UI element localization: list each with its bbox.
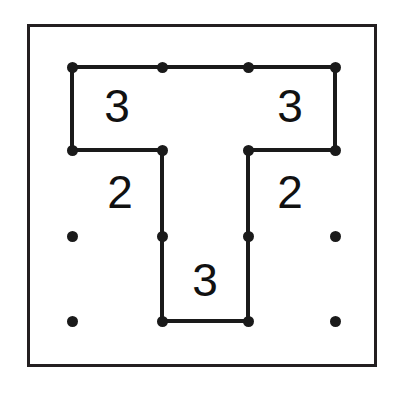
grid-dot[interactable]: [243, 145, 254, 156]
puzzle-edge-horizontal[interactable]: [162, 65, 248, 69]
grid-dot[interactable]: [330, 62, 341, 73]
grid-dot[interactable]: [330, 316, 341, 327]
grid-dot[interactable]: [67, 145, 78, 156]
grid-dot[interactable]: [157, 231, 168, 242]
cell-clue-number: 3: [104, 83, 130, 129]
grid-dot[interactable]: [157, 145, 168, 156]
puzzle-edge-vertical[interactable]: [160, 236, 164, 321]
slitherlink-puzzle: 33223: [0, 0, 394, 393]
puzzle-edge-horizontal[interactable]: [72, 148, 162, 152]
cell-clue-number: 3: [277, 83, 303, 129]
puzzle-edge-horizontal[interactable]: [162, 319, 248, 323]
grid-dot[interactable]: [330, 145, 341, 156]
puzzle-edge-vertical[interactable]: [333, 67, 337, 150]
grid-dot[interactable]: [67, 316, 78, 327]
puzzle-edge-horizontal[interactable]: [248, 65, 335, 69]
cell-clue-number: 2: [107, 169, 133, 215]
puzzle-edge-horizontal[interactable]: [72, 65, 162, 69]
puzzle-edge-horizontal[interactable]: [248, 148, 335, 152]
cell-clue-number: 3: [192, 257, 218, 303]
grid-dot[interactable]: [67, 231, 78, 242]
grid-dot[interactable]: [243, 316, 254, 327]
puzzle-edge-vertical[interactable]: [246, 150, 250, 236]
grid-dot[interactable]: [157, 316, 168, 327]
puzzle-edge-vertical[interactable]: [246, 236, 250, 321]
puzzle-edge-vertical[interactable]: [70, 67, 74, 150]
cell-clue-number: 2: [277, 169, 303, 215]
grid-dot[interactable]: [67, 62, 78, 73]
grid-dot[interactable]: [157, 62, 168, 73]
grid-dot[interactable]: [330, 231, 341, 242]
puzzle-edge-vertical[interactable]: [160, 150, 164, 236]
grid-dot[interactable]: [243, 62, 254, 73]
grid-dot[interactable]: [243, 231, 254, 242]
dot-lattice: 33223: [0, 0, 394, 393]
